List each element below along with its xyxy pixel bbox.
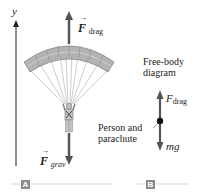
gravity-force-label: → F grav [40, 155, 65, 169]
gravity-force-subscript: grav [51, 160, 66, 169]
free-body-diagram [153, 90, 164, 151]
person-figure [63, 103, 75, 132]
drag-force-symbol: F [78, 21, 86, 35]
fbd-drag-symbol: F [166, 92, 173, 104]
panel-tag-b: B [146, 180, 155, 189]
panel-tag-a: A [21, 180, 30, 189]
object-label: Person and parachute [98, 122, 142, 144]
gravity-force-symbol: F [40, 154, 48, 168]
fbd-drag-subscript: drag [173, 97, 187, 106]
y-axis-label: y [12, 6, 17, 17]
object-label-line2: parachute [98, 133, 142, 144]
free-body-title-line1: Free-body [143, 56, 184, 67]
drag-force-label: → F drag [78, 22, 103, 36]
gravity-force-arrow [65, 133, 73, 165]
drag-force-subscript: drag [89, 27, 103, 36]
y-axis [13, 20, 19, 166]
object-label-line1: Person and [98, 122, 142, 133]
drag-force-arrow [65, 11, 73, 44]
free-body-title-line2: diagram [143, 67, 184, 78]
free-body-title: Free-body diagram [143, 56, 184, 78]
fbd-drag-label: Fdrag [166, 93, 187, 106]
parachute-canopy [24, 45, 114, 72]
fbd-mg-label: mg [166, 141, 179, 152]
